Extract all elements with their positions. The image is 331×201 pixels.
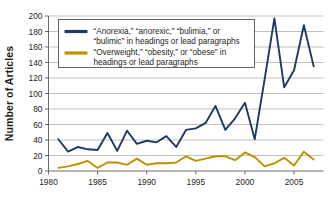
y-tick-label: 20: [33, 151, 43, 161]
y-tick-label: 0: [38, 166, 43, 176]
x-tick-label: 1980: [39, 177, 58, 187]
y-axis-title: Number of Articles: [3, 46, 15, 141]
y-tick-label: 160: [29, 42, 43, 52]
y-tick-label: 60: [33, 120, 43, 130]
line-chart: 0204060801001201401601802001980198519901…: [0, 0, 331, 201]
y-tick-label: 200: [29, 11, 43, 21]
legend-label-overweight-obesity-line2: headings or lead paragraphs: [94, 58, 198, 67]
y-tick-label: 80: [33, 104, 43, 114]
legend-label-anorexia-bulimia-line2: “bulimic” in headings or lead paragraphs: [94, 37, 240, 46]
series-line-overweight-obesity: [58, 152, 313, 168]
legend-label-overweight-obesity-line1: “Overweight,” “obesity,” or “obese” in: [94, 48, 227, 57]
x-tick-label: 1985: [88, 177, 107, 187]
x-tick-label: 1990: [137, 177, 156, 187]
x-tick-label: 2005: [285, 177, 304, 187]
y-tick-label: 120: [29, 73, 43, 83]
x-tick-label: 2000: [236, 177, 255, 187]
y-tick-label: 140: [29, 58, 43, 68]
x-tick-label: 1995: [187, 177, 206, 187]
legend-label-anorexia-bulimia-line1: “Anorexia,” “anorexic,” “bulimia,” or: [94, 27, 221, 36]
y-tick-label: 180: [29, 27, 43, 37]
y-tick-label: 40: [33, 135, 43, 145]
chart-container: 0204060801001201401601802001980198519901…: [0, 0, 331, 201]
y-tick-label: 100: [29, 89, 43, 99]
